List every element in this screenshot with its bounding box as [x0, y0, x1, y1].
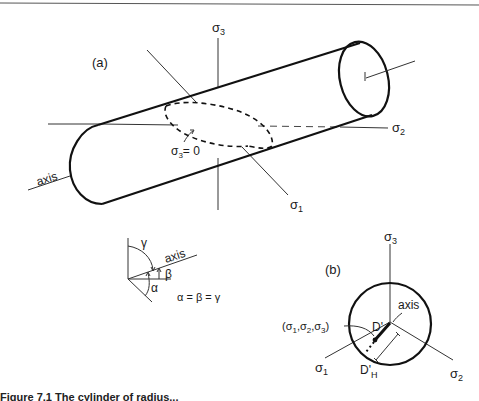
b-sigma2-label: σ2 [450, 366, 463, 383]
panel-a-label: (a) [92, 55, 108, 70]
sigma3-label: σ3 [212, 20, 225, 37]
alpha-arc [145, 273, 149, 296]
plane-section-back [166, 103, 272, 149]
sigma2-axis-hidden [258, 126, 340, 127]
d-prime-h-label: D'H [360, 363, 377, 380]
beta-label: β [165, 267, 172, 281]
cylinder-left-cap [70, 125, 102, 204]
panel-a: (a) σ3 σ2 σ1 σ3= 0 axis [28, 20, 415, 214]
cylinder-bottom-edge [102, 115, 372, 204]
b-axis-pointer [393, 313, 402, 322]
d-prime-label: D' [372, 320, 383, 334]
plane-section-front [165, 106, 248, 147]
top-rule [0, 3, 479, 5]
b-sigma1-label: σ1 [315, 360, 328, 377]
figure-caption: Figure 7.1 The cylinder of radius... [0, 391, 179, 401]
inset-axis-label: axis [163, 246, 188, 266]
sigma1-axis-lower [242, 147, 288, 195]
cylinder-axis-label: axis [35, 169, 60, 189]
panel-b: (b) σ3 σ1 σ2 axis (σ1,σ2,σ3) D' D'H [282, 229, 463, 383]
sigma2-label: σ2 [392, 120, 405, 137]
d-prime-h-dimension [376, 334, 398, 360]
plane-label: σ3= 0 [171, 144, 200, 160]
gamma-label: γ [141, 236, 147, 250]
stress-point-label: (σ1,σ2,σ3) [282, 320, 329, 335]
b-sigma2-axis [390, 322, 453, 360]
panel-b-label: (b) [325, 262, 341, 277]
diagram-canvas: (a) σ3 σ2 σ1 σ3= 0 axis γ β α axis α = β… [0, 0, 479, 401]
plane-label-pointer [184, 131, 193, 142]
d-prime-dotted [366, 342, 374, 352]
b-sigma3-label: σ3 [384, 229, 397, 246]
cylinder-top-edge [98, 43, 360, 125]
alpha-label: α [151, 281, 158, 295]
cylinder-axis-right [366, 61, 415, 78]
b-axis-label: axis [398, 298, 419, 312]
angle-equation: α = β = γ [177, 291, 221, 303]
sigma1-label: σ1 [290, 197, 303, 214]
sigma1-axis-upper [147, 50, 196, 102]
sigma2-axis-inner [100, 124, 178, 125]
angle-inset: γ β α axis α = β = γ [128, 236, 221, 303]
sigma2-axis-right [340, 127, 388, 128]
